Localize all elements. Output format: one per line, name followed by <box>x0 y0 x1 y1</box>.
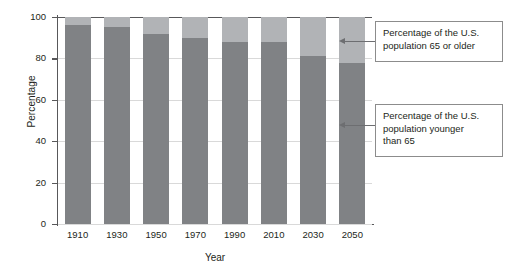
x-tick-label-2050: 2050 <box>326 229 378 240</box>
bar-1970 <box>182 17 208 224</box>
y-tick-mark-20 <box>52 183 57 184</box>
annotation-younger-line3: than 65 <box>383 135 495 148</box>
bar-segment-younger-1930 <box>104 27 130 224</box>
bar-segment-younger-2050 <box>339 63 365 224</box>
bar-segment-younger-1990 <box>222 42 248 224</box>
y-tick-mark-60 <box>52 100 57 101</box>
bar-segment-younger-1910 <box>65 25 91 224</box>
bar-2030 <box>300 17 326 224</box>
bar-1990 <box>222 17 248 224</box>
bar-2050 <box>339 17 365 224</box>
chart-container: Percentage Year 020406080100 19101930195… <box>0 0 511 274</box>
annotation-younger: Percentage of the U.S. population younge… <box>375 104 503 157</box>
bar-segment-older-2030 <box>300 17 326 56</box>
bar-segment-older-1910 <box>65 17 91 25</box>
annotation-older-line1: Percentage of the U.S. <box>383 27 495 40</box>
y-tick-label-100: 100 <box>0 11 46 22</box>
bar-segment-younger-1950 <box>143 34 169 224</box>
bar-2010 <box>261 17 287 224</box>
y-tick-mark-40 <box>52 141 57 142</box>
leader-line-younger <box>345 125 375 126</box>
bar-1950 <box>143 17 169 224</box>
bar-segment-younger-2030 <box>300 56 326 224</box>
plot-area <box>58 17 372 224</box>
x-axis-label: Year <box>58 252 372 263</box>
bar-segment-older-2010 <box>261 17 287 42</box>
annotation-older-line2: population 65 or older <box>383 40 495 53</box>
annotation-older: Percentage of the U.S. population 65 or … <box>375 21 503 62</box>
bar-segment-older-1930 <box>104 17 130 27</box>
y-tick-label-0: 0 <box>0 218 46 229</box>
y-tick-mark-80 <box>52 58 57 59</box>
bar-segment-younger-2010 <box>261 42 287 224</box>
y-tick-label-60: 60 <box>0 94 46 105</box>
y-tick-mark-100 <box>52 17 57 18</box>
y-tick-label-20: 20 <box>0 177 46 188</box>
leader-line-older <box>345 41 375 42</box>
bar-segment-older-1990 <box>222 17 248 42</box>
bar-segment-older-1950 <box>143 17 169 34</box>
bar-segment-older-1970 <box>182 17 208 38</box>
y-tick-label-40: 40 <box>0 135 46 146</box>
bar-1910 <box>65 17 91 224</box>
y-tick-mark-0 <box>52 224 57 225</box>
gridline-0 <box>58 224 372 225</box>
bar-1930 <box>104 17 130 224</box>
arrowhead-younger <box>339 122 345 128</box>
arrowhead-older <box>339 38 345 44</box>
annotation-younger-line1: Percentage of the U.S. <box>383 110 495 123</box>
y-tick-label-80: 80 <box>0 52 46 63</box>
bar-segment-younger-1970 <box>182 38 208 224</box>
annotation-younger-line2: population younger <box>383 123 495 136</box>
